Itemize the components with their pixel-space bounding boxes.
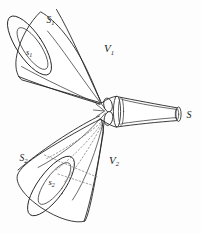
tube-end-surface-label: S [187,109,192,120]
tube-body-surface [115,97,179,128]
lower-volume-label: V2 [109,154,120,168]
upper-volume-label: V1 [104,42,114,56]
upper-funnel: S1 s1 [0,10,102,105]
lower-outer-surface-label: S2 [20,153,29,164]
funnel-volume-diagram: S1 s1 V1 [0,0,201,233]
tapered-tube [101,96,181,127]
figure-canvas: S1 s1 V1 [0,0,201,233]
lower-funnel: S2 s2 [17,116,104,222]
upper-outer-surface-label: S1 [47,15,55,26]
lower-outer-funnel-surface [17,119,103,222]
